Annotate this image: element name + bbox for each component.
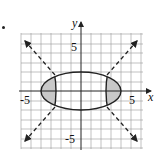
y-pos-label: 5 xyxy=(71,40,77,54)
x-neg-label: -5 xyxy=(20,93,30,107)
x-pos-label: 5 xyxy=(129,93,135,107)
x-axis-label: x xyxy=(147,90,154,104)
graph: y x 5 -5 -5 5 xyxy=(0,0,157,152)
y-axis-label: y xyxy=(71,16,78,30)
y-neg-label: -5 xyxy=(65,132,75,146)
